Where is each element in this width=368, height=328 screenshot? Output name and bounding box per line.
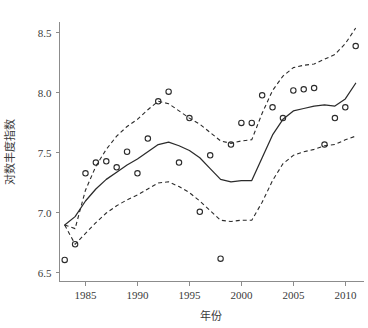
x-tick-label: 2000: [231, 289, 254, 301]
data-point: [353, 43, 358, 48]
data-point-markers: [62, 43, 358, 262]
data-point: [124, 149, 129, 154]
y-tick-label: 7.0: [38, 207, 52, 219]
data-point: [104, 159, 109, 164]
data-point: [332, 115, 337, 120]
data-point: [93, 160, 98, 165]
x-tick-label: 2010: [335, 289, 358, 301]
x-axis-ticks: 198519901995200020052010: [75, 282, 358, 301]
y-tick-label: 6.5: [38, 267, 52, 279]
chart-canvas: 6.57.07.58.08.5 198519901995200020052010…: [0, 0, 368, 328]
x-axis-title: 年份: [200, 309, 222, 322]
data-point: [62, 257, 67, 262]
fitted-trend-curve: [65, 83, 356, 225]
y-tick-label: 7.5: [38, 147, 52, 159]
data-point: [218, 256, 223, 261]
y-tick-label: 8.0: [38, 87, 52, 99]
data-point: [343, 105, 348, 110]
data-point: [114, 165, 119, 170]
scatter-chart-log-abundance-index: 6.57.07.58.08.5 198519901995200020052010…: [0, 0, 368, 328]
x-tick-label: 1985: [75, 289, 98, 301]
data-point: [239, 120, 244, 125]
x-tick-label: 1995: [179, 289, 202, 301]
data-point: [259, 93, 264, 98]
data-point: [311, 85, 316, 90]
data-point: [166, 89, 171, 94]
x-tick-label: 1990: [127, 289, 150, 301]
data-point: [135, 171, 140, 176]
data-point: [145, 136, 150, 141]
confidence-upper-curve: [65, 28, 356, 229]
y-axis-title: 对数丰度指数: [3, 119, 16, 185]
y-axis-ticks: 6.57.07.58.08.5: [38, 27, 60, 279]
x-tick-label: 2005: [283, 289, 306, 301]
data-point: [207, 153, 212, 158]
data-point: [228, 142, 233, 147]
data-point: [176, 160, 181, 165]
y-tick-label: 8.5: [38, 27, 52, 39]
data-point: [270, 105, 275, 110]
data-point: [83, 171, 88, 176]
data-point: [197, 209, 202, 214]
data-point: [249, 120, 254, 125]
data-point: [301, 87, 306, 92]
data-point: [322, 142, 327, 147]
data-point: [291, 88, 296, 93]
